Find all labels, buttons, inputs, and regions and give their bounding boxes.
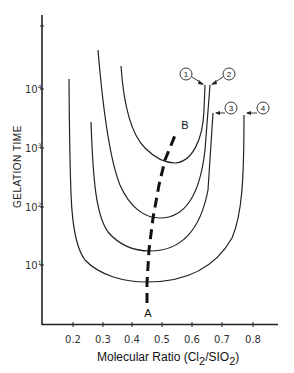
- svg-text:0.8: 0.8: [245, 334, 261, 345]
- svg-text:2: 2: [227, 70, 232, 79]
- point-a-label: A: [144, 307, 152, 319]
- svg-text:0.2: 0.2: [65, 334, 81, 345]
- curves: [69, 50, 244, 282]
- svg-text:0.3: 0.3: [95, 334, 111, 345]
- curve-2: [98, 50, 210, 218]
- y-tick-labels: 104 103 102 101: [25, 83, 42, 271]
- curve-label-arrowheads: [198, 80, 251, 115]
- svg-text:0.4: 0.4: [124, 334, 140, 345]
- svg-text:0.6: 0.6: [184, 334, 200, 345]
- svg-text:1: 1: [184, 70, 189, 79]
- svg-text:104: 104: [25, 83, 42, 95]
- curve-1: [121, 66, 205, 163]
- svg-text:4: 4: [261, 104, 266, 113]
- svg-text:3: 3: [229, 104, 234, 113]
- point-b-label: B: [181, 119, 188, 131]
- svg-text:0.5: 0.5: [154, 334, 170, 345]
- x-tick-labels: 0.2 0.3 0.4 0.5 0.6 0.7 0.8: [65, 334, 261, 345]
- x-axis-title: Molecular Ratio (Cl2/SIO2): [97, 350, 239, 367]
- svg-text:0.7: 0.7: [214, 334, 230, 345]
- gelation-time-chart: 104 103 102 101 0.2 0.3 0.4 0.5 0.6 0.7 …: [0, 0, 294, 373]
- curve-4: [69, 79, 244, 282]
- svg-text:103: 103: [25, 142, 42, 154]
- curve-labels: [180, 68, 269, 114]
- svg-text:102: 102: [25, 201, 42, 213]
- svg-text:101: 101: [25, 259, 42, 271]
- y-axis-title: GELATION TIME: [12, 125, 23, 208]
